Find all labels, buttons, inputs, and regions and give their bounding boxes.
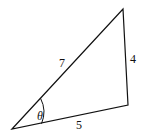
triangle-svg: 7 4 5 θ (0, 0, 144, 135)
triangle-diagram: 7 4 5 θ (0, 0, 144, 135)
angle-label-theta: θ (37, 109, 43, 123)
triangle-shape (12, 9, 128, 129)
side-label-bottom: 5 (76, 118, 82, 132)
side-label-right: 4 (130, 52, 136, 66)
side-label-hypotenuse: 7 (59, 56, 65, 70)
